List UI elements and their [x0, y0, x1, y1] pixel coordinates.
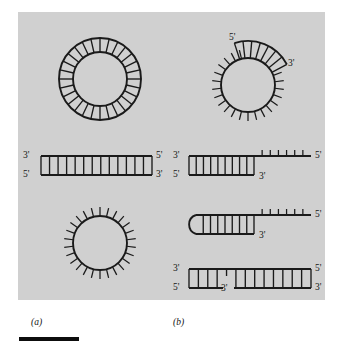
linear-double-stranded-dna-end-label-5prime: 5': [156, 151, 162, 161]
linear-double-stranded-dna-end-label-3prime: 3': [23, 151, 29, 161]
circular-single-stranded-dna: [64, 207, 135, 279]
partial-duplex-with-5prime-overhang-end-label-3prime: 3': [173, 151, 179, 161]
linear-double-stranded-dna-end-label-5prime: 5': [23, 170, 29, 180]
hairpin-loop-with-5prime-tail-end-label-3prime: 3': [259, 231, 265, 241]
nicked-linear-duplex-end-label-3prime: 3': [173, 264, 179, 274]
partial-duplex-with-5prime-overhang-end-label-5prime: 5': [315, 151, 321, 161]
figure-root: 5'3'3'5'5'3'3'5'3'5'3'5'3'5'3'5'3' (a) (…: [0, 0, 337, 345]
scale-bar: [19, 337, 79, 341]
partial-duplex-with-5prime-overhang-end-label-3prime: 3': [259, 172, 265, 182]
linear-double-stranded-dna-end-label-3prime: 3': [156, 170, 162, 180]
nicked-linear-duplex: [189, 269, 311, 288]
nicked-linear-duplex-end-label-5prime: 5': [315, 264, 321, 274]
partial-duplex-with-5prime-overhang-end-label-5prime: 5': [173, 170, 179, 180]
hairpin-loop-with-5prime-tail: [189, 209, 311, 234]
nicked-linear-duplex-end-label-5prime: 5': [173, 283, 179, 293]
linear-double-stranded-dna: [41, 156, 152, 175]
circular-ssdna-with-duplex-region-end-label-3prime: 3': [288, 59, 294, 69]
circular-ssdna-with-duplex-region-end-label-5prime: 5': [229, 33, 235, 43]
hairpin-loop-with-5prime-tail-end-label-5prime: 5': [315, 210, 321, 220]
partial-duplex-with-5prime-overhang: [189, 150, 311, 175]
panel-label-b: (b): [173, 318, 184, 328]
nicked-linear-duplex-end-label-3prime: 3': [221, 284, 227, 294]
nicked-linear-duplex-end-label-3prime: 3': [315, 283, 321, 293]
dna-structures-illustration: [0, 0, 337, 345]
circular-ssdna-with-duplex-region: [212, 41, 287, 121]
circular-double-stranded-dna: [59, 38, 141, 120]
panel-label-a: (a): [31, 318, 42, 328]
